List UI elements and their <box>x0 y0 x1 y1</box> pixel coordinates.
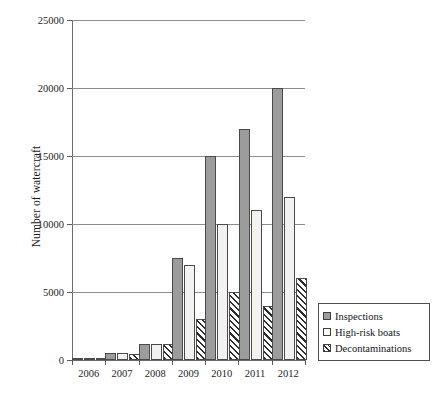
x-tick-mark-2006 <box>72 360 73 365</box>
x-tick-label-2011: 2011 <box>245 368 266 379</box>
y-tick-label-0: 0 <box>59 355 64 366</box>
y-tick-label-20000: 20000 <box>38 83 64 94</box>
x-tick-mark-2010 <box>205 360 206 365</box>
x-tick-mark-2011 <box>238 360 239 365</box>
y-tick-label-5000: 5000 <box>43 287 64 298</box>
y-tick-mark-10000 <box>67 224 72 225</box>
y-tick-mark-15000 <box>67 156 72 157</box>
bar-2010-inspections <box>205 156 216 360</box>
y-tick-mark-25000 <box>67 20 72 21</box>
bar-2012-high-risk-boats <box>284 197 295 360</box>
bar-2011-high-risk-boats <box>251 210 262 360</box>
x-tick-mark-2008 <box>139 360 140 365</box>
legend-swatch-icon <box>323 312 331 320</box>
bar-2011-inspections <box>239 129 250 360</box>
bar-2008-inspections <box>139 344 150 360</box>
plot-area: 0500010000150002000025000 20062007200820… <box>72 20 305 360</box>
bar-2012-inspections <box>272 88 283 360</box>
bar-2010-high-risk-boats <box>217 224 228 360</box>
x-tick-label-2012: 2012 <box>278 368 299 379</box>
x-tick-label-2009: 2009 <box>178 368 199 379</box>
bar-2009-high-risk-boats <box>184 265 195 360</box>
legend-swatch-icon <box>323 328 331 336</box>
gridline-15000 <box>72 156 305 157</box>
y-tick-label-10000: 10000 <box>38 219 64 230</box>
x-tick-label-2008: 2008 <box>145 368 166 379</box>
y-tick-label-15000: 15000 <box>38 151 64 162</box>
x-tick-mark-2009 <box>172 360 173 365</box>
gridline-20000 <box>72 88 305 89</box>
y-tick-label-25000: 25000 <box>38 15 64 26</box>
legend-item-decontaminations[interactable]: Decontaminations <box>323 340 425 356</box>
bar-2006-inspections <box>72 358 83 360</box>
x-tick-mark-2012 <box>272 360 273 365</box>
legend-label: Inspections <box>335 311 383 322</box>
x-tick-label-2010: 2010 <box>211 368 232 379</box>
bar-2009-inspections <box>172 258 183 360</box>
x-tick-mark-2007 <box>105 360 106 365</box>
bar-2007-inspections <box>105 353 116 360</box>
x-tick-label-2006: 2006 <box>78 368 99 379</box>
x-tick-mark-end <box>305 360 306 365</box>
x-tick-label-2007: 2007 <box>111 368 132 379</box>
legend-item-high-risk-boats[interactable]: High-risk boats <box>323 324 425 340</box>
bar-2007-high-risk-boats <box>117 353 128 360</box>
bar-2012-decontaminations <box>296 278 307 360</box>
legend: InspectionsHigh-risk boatsDecontaminatio… <box>318 303 430 361</box>
bar-2006-high-risk-boats <box>84 358 95 360</box>
y-tick-mark-20000 <box>67 88 72 89</box>
gridline-10000 <box>72 224 305 225</box>
gridline-25000 <box>72 20 305 21</box>
legend-swatch-icon <box>323 344 331 352</box>
y-tick-mark-5000 <box>67 292 72 293</box>
bar-2008-high-risk-boats <box>151 344 162 360</box>
legend-item-inspections[interactable]: Inspections <box>323 308 425 324</box>
legend-label: High-risk boats <box>335 327 400 338</box>
legend-label: Decontaminations <box>335 343 411 354</box>
bar-chart: Number of watercraft 0500010000150002000… <box>0 0 432 393</box>
y-axis-title: Number of watercraft <box>24 0 48 393</box>
